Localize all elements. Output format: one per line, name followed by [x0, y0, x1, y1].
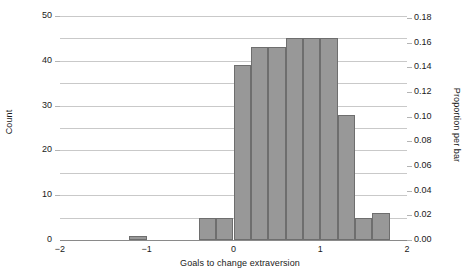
histogram-bar	[320, 38, 337, 240]
y-tick-label-left: 40	[26, 55, 52, 65]
histogram-bar	[268, 47, 285, 240]
histogram-bar	[355, 218, 372, 240]
histogram-bar	[216, 218, 233, 240]
y-tick-label-right: 0.08	[414, 135, 444, 145]
bars-group	[0, 0, 472, 279]
y-tick-label-right: 0.06	[414, 160, 444, 170]
y-tick-label-right: 0.14	[414, 61, 444, 71]
y-tick-label-left: 30	[26, 100, 52, 110]
histogram-bar	[372, 213, 389, 240]
y-tick-label-left: 0	[26, 234, 52, 244]
histogram-bar	[129, 236, 146, 240]
y-tick-label-left: 50	[26, 10, 52, 20]
x-tick-label: 2	[396, 244, 418, 254]
histogram-bar	[199, 218, 216, 240]
histogram-figure: 010203040500.000.020.040.060.080.100.120…	[0, 0, 472, 279]
x-tick-label: 0	[223, 244, 245, 254]
y-axis-label-left: Count	[4, 92, 14, 152]
y-tick-label-right: 0.16	[414, 37, 444, 47]
x-axis-label: Goals to change extraversion	[130, 258, 350, 268]
histogram-bar	[303, 38, 320, 240]
y-tick-label-right: 0.04	[414, 185, 444, 195]
x-tick-label: −2	[49, 244, 71, 254]
y-tick-label-left: 10	[26, 189, 52, 199]
y-tick-label-right: 0.12	[414, 86, 444, 96]
y-tick-label-left: 20	[26, 144, 52, 154]
y-axis-label-right: Proportion per bar	[452, 80, 462, 170]
y-tick-label-right: 0.02	[414, 209, 444, 219]
histogram-bar	[286, 38, 303, 240]
histogram-bar	[338, 115, 355, 240]
y-tick-label-right: 0.18	[414, 12, 444, 22]
x-tick-label: −1	[136, 244, 158, 254]
x-tick-label: 1	[309, 244, 331, 254]
histogram-bar	[251, 47, 268, 240]
y-tick-label-right: 0.00	[414, 234, 444, 244]
y-tick-label-right: 0.10	[414, 111, 444, 121]
histogram-bar	[234, 65, 251, 240]
